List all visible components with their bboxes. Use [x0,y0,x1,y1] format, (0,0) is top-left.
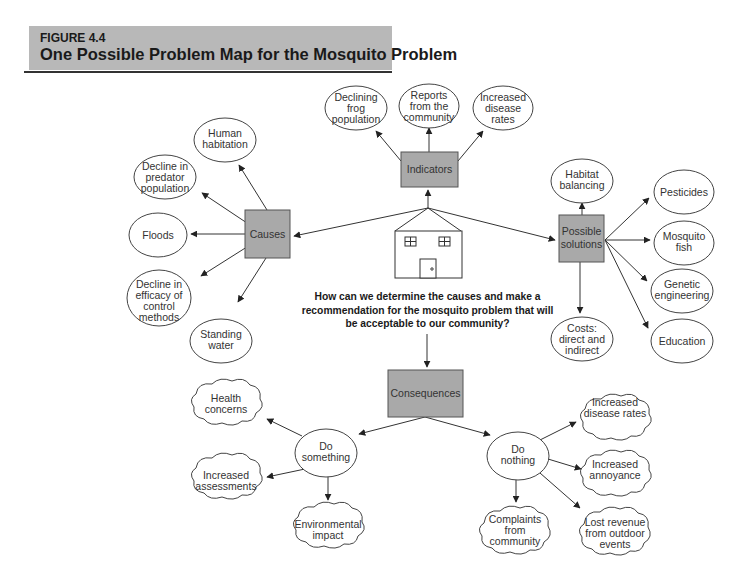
node-text: events [600,538,631,550]
consequences-label: Consequences [390,387,460,399]
node-text: indirect [565,344,599,356]
consequences-box[interactable]: Consequences [388,370,463,417]
node-text: Pesticides [660,186,708,198]
node-text: annoyance [589,469,641,481]
cloud-lost-revenue[interactable]: Lost revenue from outdoor events [579,507,650,555]
node-text: population [332,113,381,125]
solution-node-education[interactable]: Education [651,319,713,363]
node-text: methods [139,311,179,323]
cloud-increased-annoyance[interactable]: Increased annoyance [580,450,651,496]
node-text: Floods [142,229,174,241]
indicator-node-reports[interactable]: Reports from the community [399,84,459,128]
indicator-node-disease-rates[interactable]: Increased disease rates [473,86,533,130]
node-text: concerns [205,403,248,415]
solution-node-genetic-engineering[interactable]: Genetic engineering [651,269,713,313]
node-text: assessments [195,480,256,492]
node-text: nothing [501,454,536,466]
node-text: engineering [655,289,710,301]
cloud-complaints[interactable]: Complaints from community [479,506,550,554]
node-text: community [490,535,542,547]
node-text: population [141,182,190,194]
causes-box[interactable]: Causes [245,210,290,258]
indicators-box[interactable]: Indicators [401,152,458,187]
solutions-label-line2: solutions [561,238,602,250]
cause-node-floods[interactable]: Floods [129,213,187,257]
solutions-label-line1: Possible [562,225,602,237]
cause-node-control-efficacy[interactable]: Decline in efficacy of control methods [127,270,191,326]
node-text: community [404,111,456,123]
indicator-node-declining-frog[interactable]: Declining frog population [325,86,387,130]
solution-node-pesticides[interactable]: Pesticides [654,170,714,214]
solution-node-costs[interactable]: Costs: direct and indirect [551,317,613,361]
solution-node-habitat-balancing[interactable]: Habitat balancing [551,159,613,203]
node-text: something [302,451,351,463]
cloud-environmental-impact[interactable]: Environmental impact [293,502,364,548]
do-nothing-node[interactable]: Do nothing [487,432,549,480]
solution-node-mosquito-fish[interactable]: Mosquito fish [654,221,714,265]
causes-label: Causes [250,228,286,240]
do-something-node[interactable]: Do something [295,429,357,477]
solutions-box[interactable]: Possible solutions [559,215,604,262]
cloud-increased-assessments[interactable]: Increased assessments [191,453,262,499]
cause-node-human-habitation[interactable]: Human habitation [194,118,256,162]
central-question: How can we determine the causes and make… [300,290,555,331]
cloud-health-concerns[interactable]: Health concerns [191,379,262,425]
cause-node-standing-water[interactable]: Standing water [190,319,252,363]
node-text: impact [313,529,344,541]
node-text: Education [659,335,706,347]
problem-map-diagram: Indicators Causes Possible solutions Con… [0,0,749,574]
node-text: habitation [202,138,248,150]
house-icon [395,208,462,278]
node-text: water [207,339,234,351]
node-text: disease rates [584,407,646,419]
node-text: fish [676,241,693,253]
cloud-increased-disease-rates[interactable]: Increased disease rates [580,394,651,440]
cause-node-predator-decline[interactable]: Decline in predator population [134,155,196,199]
node-text: rates [491,113,514,125]
indicators-label: Indicators [407,163,453,175]
node-text: balancing [560,179,605,191]
